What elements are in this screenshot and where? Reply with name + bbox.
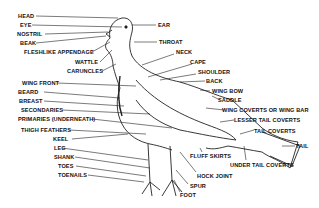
label-saddle: SADDLE: [218, 97, 242, 103]
label-spur: SPUR: [190, 183, 206, 189]
turkey-anatomy-diagram: HEAD EYE NOSTRIL BEAK FLESHLIKE APPENDAG…: [0, 0, 319, 208]
label-throat: THROAT: [159, 39, 183, 45]
label-wattle: WATTLE: [75, 59, 98, 65]
label-tail: TAIL: [296, 143, 308, 149]
label-beard: BEARD: [18, 89, 38, 95]
label-under-tail-coverts: UNDER TAIL COVERTS: [230, 162, 294, 168]
label-beak: BEAK: [20, 40, 36, 46]
label-tail-coverts: TAIL COVERTS: [254, 128, 296, 134]
label-cape: CAPE: [190, 59, 206, 65]
label-shank: SHANK: [54, 154, 74, 160]
label-thigh-feathers: THIGH FEATHERS: [21, 127, 71, 133]
label-breast: BREAST: [19, 98, 43, 104]
label-foot: FOOT: [180, 192, 196, 198]
label-hock-joint: HOCK JOINT: [197, 173, 233, 179]
label-wing-front: WING FRONT: [22, 80, 59, 86]
turkey-illustration: [0, 0, 319, 208]
label-neck: NECK: [176, 49, 192, 55]
label-leg: LEG: [54, 145, 66, 151]
label-keel: KEEL: [53, 136, 68, 142]
label-back: BACK: [206, 78, 223, 84]
label-head: HEAD: [18, 13, 34, 19]
label-secondaries: SECONDARIES: [21, 107, 63, 113]
label-fluff-skirts: FLUFF SKIRTS: [190, 153, 231, 159]
label-ear: EAR: [158, 22, 170, 28]
label-wing-bow: WING BOW: [212, 88, 243, 94]
label-wing-coverts: WING COVERTS OR WING BAR: [222, 107, 309, 113]
label-shoulder: SHOULDER: [198, 69, 230, 75]
label-lesser-tail-coverts: LESSER TAIL COVERTS: [234, 117, 300, 123]
label-caruncles: CARUNCLES: [67, 68, 103, 74]
label-primaries: PRIMARIES (UNDERNEATH): [18, 116, 95, 122]
label-toenails: TOENAILS: [58, 172, 87, 178]
label-eye: EYE: [20, 22, 32, 28]
label-nostril: NOSTRIL: [17, 31, 42, 37]
label-fleshlike-appendage: FLESHLIKE APPENDAGE: [24, 49, 94, 55]
label-toes: TOES: [58, 163, 74, 169]
